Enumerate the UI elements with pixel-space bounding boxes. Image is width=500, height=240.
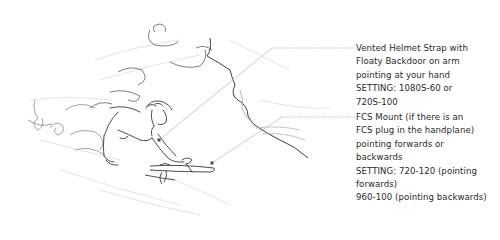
callout-helmet-strap: Vented Helmet Strap with Floaty Backdoor… xyxy=(356,42,498,109)
leader-lines xyxy=(159,48,355,163)
callout-text: pointing forwards or xyxy=(356,138,498,151)
callout-setting: 960-100 (pointing backwards) xyxy=(356,191,498,204)
callout-text: pointing at your hand xyxy=(356,69,498,82)
callout-setting: 720S-100 xyxy=(356,96,498,109)
leader-line-fcs-mount xyxy=(212,117,282,163)
wave-lip-inner xyxy=(240,90,250,120)
callout-fcs-mount: FCS Mount (if there is an FCS plug in th… xyxy=(356,111,498,205)
callout-text: FCS plug in the handplane) xyxy=(356,124,498,137)
callout-setting: SETTING: 720-120 (pointing xyxy=(356,165,498,178)
callout-setting: forwards) xyxy=(356,178,498,191)
callout-text: Floaty Backdoor on arm xyxy=(356,55,498,68)
wave-lip-line xyxy=(207,38,308,158)
marker-fcs-mount xyxy=(211,162,214,165)
handplane xyxy=(145,164,214,185)
bodysurfer-figure xyxy=(104,101,193,172)
leader-line-helmet-strap xyxy=(159,48,272,140)
callout-setting: SETTING: 1080S-60 or xyxy=(356,82,498,95)
marker-helmet-strap xyxy=(158,139,161,142)
callout-text: backwards xyxy=(356,151,498,164)
callout-text: Vented Helmet Strap with xyxy=(356,42,498,55)
callout-text: FCS Mount (if there is an xyxy=(356,111,498,124)
